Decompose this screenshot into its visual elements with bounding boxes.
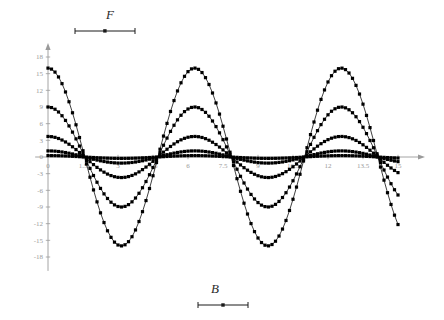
data-point-marker	[249, 156, 252, 159]
data-point-marker	[239, 163, 242, 166]
data-point-marker	[88, 156, 91, 159]
data-point-marker	[74, 148, 77, 151]
data-point-marker	[267, 205, 270, 208]
data-point-marker	[74, 137, 77, 140]
data-point-marker	[137, 170, 140, 173]
data-point-marker	[274, 203, 277, 206]
data-point-marker	[361, 155, 364, 158]
data-point-marker	[225, 155, 228, 158]
data-point-marker	[67, 100, 70, 103]
data-point-marker	[53, 108, 56, 111]
data-point-marker	[200, 136, 203, 139]
data-point-marker	[347, 108, 350, 111]
data-point-marker	[137, 192, 140, 195]
data-point-marker	[165, 122, 168, 125]
data-point-marker	[176, 154, 179, 157]
data-point-marker	[78, 144, 81, 147]
y-tick-label: 6	[40, 120, 44, 128]
data-point-marker	[316, 109, 319, 112]
data-point-marker	[379, 161, 382, 164]
data-point-marker	[116, 161, 119, 164]
data-point-marker	[309, 150, 312, 153]
y-tick-label: 12	[36, 87, 44, 95]
data-point-marker	[319, 142, 322, 145]
x-tick-label: 12	[325, 162, 333, 170]
data-point-marker	[246, 159, 249, 162]
data-point-marker	[389, 203, 392, 206]
data-point-marker	[172, 152, 175, 155]
data-point-marker	[141, 159, 144, 162]
data-point-marker	[344, 135, 347, 138]
data-point-marker	[123, 243, 126, 246]
data-point-marker	[249, 160, 252, 163]
data-point-marker	[330, 150, 333, 153]
data-point-marker	[67, 124, 70, 127]
data-point-marker	[239, 156, 242, 159]
data-point-marker	[337, 149, 340, 152]
data-point-marker	[344, 106, 347, 109]
data-point-marker	[176, 151, 179, 154]
data-point-marker	[256, 236, 259, 239]
data-point-marker	[277, 200, 280, 203]
data-point-marker	[298, 159, 301, 162]
data-point-marker	[60, 82, 63, 85]
data-point-marker	[393, 169, 396, 172]
data-point-marker	[354, 150, 357, 153]
data-point-marker	[326, 113, 329, 116]
data-point-marker	[386, 164, 389, 167]
data-point-marker	[148, 163, 151, 166]
data-point-marker	[358, 154, 361, 157]
data-point-marker	[46, 105, 49, 108]
y-tick-label: -12	[34, 220, 44, 228]
data-point-marker	[260, 157, 263, 160]
data-point-marker	[183, 154, 186, 157]
data-point-marker	[368, 149, 371, 152]
data-point-marker	[211, 119, 214, 122]
bottom-scale-bar-center-marker	[221, 303, 224, 306]
data-point-marker	[253, 157, 256, 160]
data-point-marker	[312, 136, 315, 139]
data-point-marker	[333, 136, 336, 139]
y-tick-label: -3	[37, 170, 43, 178]
x-axis-arrow-icon	[418, 154, 425, 159]
data-point-marker	[284, 191, 287, 194]
data-point-marker	[305, 150, 308, 153]
data-point-marker	[60, 150, 63, 153]
data-point-marker	[207, 154, 210, 157]
data-point-marker	[291, 179, 294, 182]
data-point-marker	[169, 110, 172, 113]
data-point-marker	[106, 160, 109, 163]
data-point-marker	[372, 146, 375, 149]
data-point-marker	[183, 75, 186, 78]
data-point-marker	[295, 162, 298, 165]
data-point-marker	[396, 223, 399, 226]
data-point-marker	[190, 154, 193, 157]
data-point-marker	[393, 156, 396, 159]
data-point-marker	[365, 114, 368, 117]
data-point-marker	[130, 200, 133, 203]
data-point-marker	[193, 67, 196, 70]
data-point-marker	[260, 204, 263, 207]
data-point-marker	[113, 203, 116, 206]
data-point-marker	[120, 162, 123, 165]
data-point-marker	[95, 156, 98, 159]
data-point-marker	[165, 155, 168, 158]
y-tick-label: -9	[37, 203, 43, 211]
data-point-marker	[260, 241, 263, 244]
bottom-legend-group: B	[198, 281, 248, 308]
data-point-marker	[351, 150, 354, 153]
data-point-marker	[382, 168, 385, 171]
data-point-marker	[309, 155, 312, 158]
data-point-marker	[263, 157, 266, 160]
data-point-marker	[123, 205, 126, 208]
y-tick-label: 9	[40, 103, 44, 111]
data-point-marker	[221, 148, 224, 151]
data-point-marker	[193, 135, 196, 138]
data-point-marker	[57, 150, 60, 153]
data-point-marker	[60, 114, 63, 117]
data-point-marker	[109, 161, 112, 164]
data-point-marker	[218, 145, 221, 148]
data-point-marker	[358, 141, 361, 144]
data-point-marker	[361, 103, 364, 106]
data-point-marker	[333, 107, 336, 110]
